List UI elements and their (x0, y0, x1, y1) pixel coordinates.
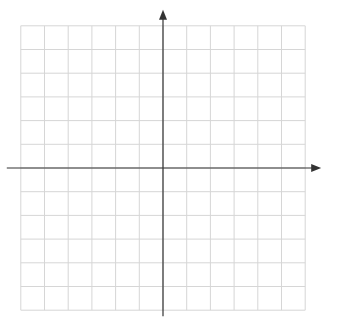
y-axis-arrow-icon (159, 10, 167, 20)
x-axis-arrow-icon (311, 164, 321, 172)
coordinate-grid (0, 0, 339, 325)
